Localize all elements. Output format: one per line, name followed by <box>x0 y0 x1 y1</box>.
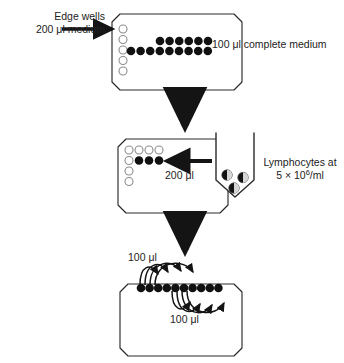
filled-well <box>206 284 215 293</box>
hundred-ul-bottom-label: 100 μl <box>170 313 199 326</box>
open-well <box>125 146 133 154</box>
filled-well <box>194 37 203 46</box>
filled-well <box>175 37 184 46</box>
open-well <box>155 146 163 154</box>
hundred-ul-top-label-text: 100 μl <box>128 251 157 263</box>
open-well <box>135 146 143 154</box>
open-well <box>145 146 153 154</box>
open-well <box>119 57 127 65</box>
two-hundred-ul-label: 200 μl <box>165 169 194 182</box>
filled-well <box>137 284 146 293</box>
filled-well-row-main-step1 <box>127 47 212 56</box>
open-well <box>125 178 133 186</box>
open-well-column-step1 <box>119 25 127 75</box>
lymphocytes-label: Lymphocytes at 5 × 106/ml <box>256 156 344 182</box>
filled-well <box>184 47 193 56</box>
filled-well <box>136 47 145 56</box>
serial-dilution-arrows-top <box>140 263 193 285</box>
filled-well <box>156 37 165 46</box>
filled-well <box>146 47 155 56</box>
filled-well <box>155 156 164 165</box>
open-well <box>119 46 127 54</box>
filled-well-row-step2 <box>135 156 164 165</box>
lymphocytes-concentration: 5 × 106/ml <box>276 169 324 181</box>
two-hundred-ul-label-text: 200 μl <box>165 169 194 181</box>
complete-medium-label-text: 100 μl complete medium <box>212 38 327 50</box>
step-3-plate-group <box>120 263 242 356</box>
open-well <box>125 157 133 165</box>
edge-wells-label-line2: 200 μl medium <box>36 23 105 35</box>
filled-well <box>188 284 197 293</box>
filled-well <box>194 47 203 56</box>
hundred-ul-bottom-label-text: 100 μl <box>170 313 199 325</box>
open-well <box>119 67 127 75</box>
filled-well <box>214 284 223 293</box>
open-well <box>119 25 127 33</box>
hundred-ul-top-label: 100 μl <box>128 251 157 264</box>
open-well <box>125 167 133 175</box>
open-well <box>119 36 127 44</box>
curved-transfer-arrow <box>155 263 193 285</box>
lymphocytes-conc-suffix: /ml <box>310 169 324 181</box>
filled-well <box>154 284 163 293</box>
complete-medium-label: 100 μl complete medium <box>212 38 327 51</box>
filled-well <box>175 47 184 56</box>
figure-root: Edge wells 200 μl medium 100 μl complete… <box>0 0 344 363</box>
filled-well <box>145 284 154 293</box>
filled-well <box>185 37 194 46</box>
filled-well <box>197 284 206 293</box>
filled-well <box>165 47 174 56</box>
open-well-row-step2 <box>135 146 163 154</box>
filled-well <box>204 47 213 56</box>
filled-well <box>163 284 172 293</box>
lymphocytes-label-line1: Lymphocytes at <box>263 156 336 168</box>
filled-well <box>127 47 136 56</box>
lymphocytes-conc-prefix: 5 × 10 <box>276 169 306 181</box>
filled-well <box>145 156 154 165</box>
filled-well <box>156 47 165 56</box>
edge-wells-label-line1: Edge wells <box>54 10 105 22</box>
filled-well <box>135 156 144 165</box>
edge-wells-label: Edge wells 200 μl medium <box>0 10 105 36</box>
filled-well <box>165 37 174 46</box>
filled-well <box>204 37 213 46</box>
